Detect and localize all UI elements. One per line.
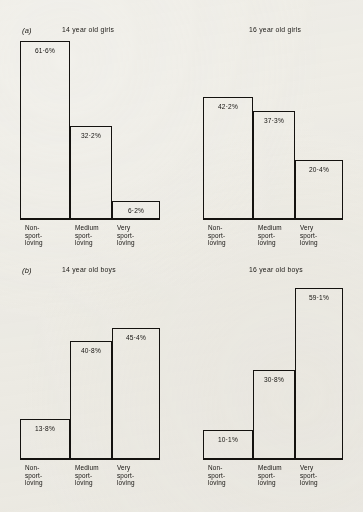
bar: 42·2% [203, 97, 253, 219]
bar: 30·8% [253, 370, 295, 459]
axis-baseline [20, 219, 160, 220]
category-label-b2-0: Non- sport- loving [203, 464, 253, 487]
bar-value-label: 42·2% [204, 103, 252, 110]
bar: 37·3% [253, 111, 295, 219]
chart-title-14-year-old-boys: 14 year old boys [62, 266, 116, 273]
bar-value-label: 61·6% [21, 47, 69, 54]
bar: 61·6% [20, 41, 70, 219]
bar-value-label: 32·2% [71, 132, 111, 139]
bar-value-label: 40·8% [71, 347, 111, 354]
category-label-a2-2: Very sport- loving [295, 224, 343, 247]
bar: 20·4% [295, 160, 343, 219]
figure-bar-charts: (a) 14 year old girls 16 year old girls … [0, 0, 363, 512]
axis-baseline [20, 459, 160, 460]
category-axis-labels: Non- sport- lovingMedium sport- lovingVe… [20, 224, 160, 247]
axis-baseline [203, 459, 343, 460]
bar-value-label: 13·8% [21, 425, 69, 432]
bar: 32·2% [70, 126, 112, 219]
chart-14-year-old-boys: 13·8%40·8%45·4%Non- sport- lovingMedium … [20, 274, 160, 460]
chart-16-year-old-girls: 42·2%37·3%20·4%Non- sport- lovingMedium … [203, 34, 345, 220]
plot-area: 10·1%30·8%59·1% [203, 274, 345, 459]
bar: 13·8% [20, 419, 70, 459]
bar: 59·1% [295, 288, 343, 459]
axis-baseline [203, 219, 343, 220]
category-label-b1-2: Very sport- loving [112, 464, 160, 487]
category-label-b1-0: Non- sport- loving [20, 464, 70, 487]
bar-value-label: 6·2% [113, 207, 159, 214]
bar-value-label: 10·1% [204, 436, 252, 443]
bar-value-label: 59·1% [296, 294, 342, 301]
chart-title-16-year-old-girls: 16 year old girls [249, 26, 301, 33]
category-label-a1-2: Very sport- loving [112, 224, 160, 247]
category-label-b1-1: Medium sport- loving [70, 464, 112, 487]
plot-area: 42·2%37·3%20·4% [203, 34, 345, 219]
chart-title-14-year-old-girls: 14 year old girls [62, 26, 114, 33]
plot-area: 13·8%40·8%45·4% [20, 274, 160, 459]
bar-value-label: 20·4% [296, 166, 342, 173]
chart-14-year-old-girls: 61·6%32·2%6·2%Non- sport- lovingMedium s… [20, 34, 160, 220]
bar: 10·1% [203, 430, 253, 459]
category-label-a1-0: Non- sport- loving [20, 224, 70, 247]
bar: 6·2% [112, 201, 160, 219]
category-axis-labels: Non- sport- lovingMedium sport- lovingVe… [203, 464, 345, 487]
category-label-a2-1: Medium sport- loving [253, 224, 295, 247]
bar-value-label: 45·4% [113, 334, 159, 341]
chart-16-year-old-boys: 10·1%30·8%59·1%Non- sport- lovingMedium … [203, 274, 345, 460]
bar-value-label: 37·3% [254, 117, 294, 124]
plot-area: 61·6%32·2%6·2% [20, 34, 160, 219]
bar-value-label: 30·8% [254, 376, 294, 383]
category-axis-labels: Non- sport- lovingMedium sport- lovingVe… [20, 464, 160, 487]
category-label-a2-0: Non- sport- loving [203, 224, 253, 247]
category-label-b2-1: Medium sport- loving [253, 464, 295, 487]
bar: 45·4% [112, 328, 160, 459]
chart-title-16-year-old-boys: 16 year old boys [249, 266, 303, 273]
category-axis-labels: Non- sport- lovingMedium sport- lovingVe… [203, 224, 345, 247]
category-label-b2-2: Very sport- loving [295, 464, 343, 487]
category-label-a1-1: Medium sport- loving [70, 224, 112, 247]
bar: 40·8% [70, 341, 112, 459]
